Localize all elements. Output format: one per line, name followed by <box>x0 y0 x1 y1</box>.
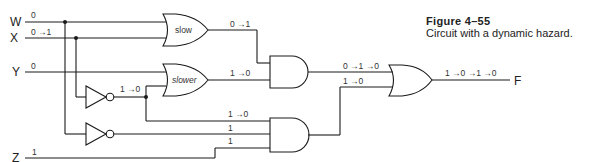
input-w-value: 0 <box>31 10 36 20</box>
and-top-output-value: 0 →1 →0 <box>343 61 379 71</box>
input-z-label: Z <box>12 151 19 162</box>
figure-caption: Figure 4–55 Circuit with a dynamic hazar… <box>426 15 573 39</box>
and-bottom-input-1-value: 1 →0 <box>228 109 249 119</box>
and-bottom-output-value: 1 →0 <box>343 76 364 86</box>
input-y-label: Y <box>12 65 20 79</box>
slower-output-value: 1 →0 <box>230 68 251 78</box>
input-x-value: 0 →1 <box>31 27 52 37</box>
or-slow-label: slow <box>175 25 193 35</box>
circuit-diagram: W X Y Z F 0 0 →1 0 1 slow slower 0 →1 1 … <box>0 0 598 162</box>
figure-description: Circuit with a dynamic hazard. <box>426 27 573 39</box>
input-y-value: 0 <box>31 61 36 71</box>
input-w-label: W <box>10 15 22 29</box>
slow-output-value: 0 →1 <box>230 19 251 29</box>
and-bottom-input-3-value: 1 <box>228 136 233 146</box>
output-f-label: F <box>514 74 521 88</box>
input-x-label: X <box>10 31 18 45</box>
output-f-value: 1 →0 →1 →0 <box>445 68 497 78</box>
figure-number: Figure 4–55 <box>426 15 573 27</box>
inverter-output-value: 1 →0 <box>120 84 141 94</box>
input-z-value: 1 <box>32 147 37 157</box>
and-bottom-input-2-value: 1 <box>228 123 233 133</box>
or-slower-label: slower <box>172 75 198 85</box>
